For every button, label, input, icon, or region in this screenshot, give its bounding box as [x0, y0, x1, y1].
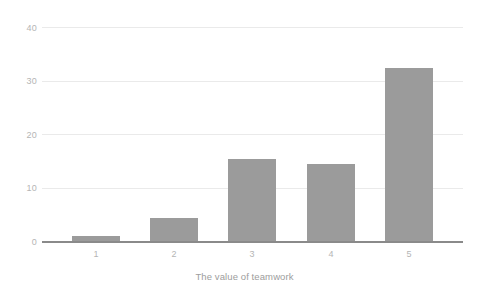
gridline-40 [42, 27, 463, 28]
x-axis-title: The value of teamwork [0, 271, 489, 282]
bar-2 [150, 218, 198, 241]
bar-5 [385, 68, 433, 241]
plot-area [42, 27, 463, 241]
x-tick-label-2: 2 [150, 250, 198, 259]
x-tick-label-1: 1 [72, 250, 120, 259]
y-tick-label-10: 10 [5, 184, 37, 193]
y-tick-label-0: 0 [5, 238, 37, 247]
y-tick-label-30: 30 [5, 77, 37, 86]
x-tick-label-5: 5 [385, 250, 433, 259]
bar-3 [228, 159, 276, 241]
y-axis-tick-labels: 40 30 20 10 0 [0, 0, 37, 298]
x-tick-label-4: 4 [307, 250, 355, 259]
bar-4 [307, 164, 355, 241]
x-tick-label-3: 3 [228, 250, 276, 259]
y-tick-label-20: 20 [5, 131, 37, 140]
bar-chart: 40 30 20 10 0 1 2 3 4 5 The value of tea… [0, 0, 489, 298]
x-axis-line [42, 241, 463, 243]
y-tick-label-40: 40 [5, 24, 37, 33]
